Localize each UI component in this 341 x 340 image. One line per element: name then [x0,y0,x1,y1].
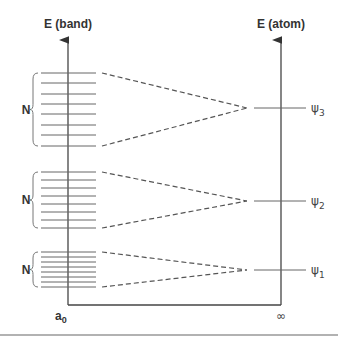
band-group: Nψ3 [22,73,325,146]
axes [68,40,281,305]
dashed-connector [102,252,247,270]
dashed-connector [102,108,247,146]
band-formation-diagram: E (band) E (atom) a0 ∞ Nψ3Nψ2Nψ1 [0,0,341,340]
band-group: Nψ1 [22,252,325,287]
band-count-label: N [22,263,31,277]
brace-icon [30,172,38,228]
atomic-level-label: ψ1 [311,263,325,280]
energy-bands: Nψ3Nψ2Nψ1 [22,73,325,287]
atomic-level-label: ψ2 [311,194,325,211]
band-count-label: N [22,103,31,117]
band-count-label: N [22,193,31,207]
dashed-connector [102,201,247,228]
left-axis-label: E (band) [44,17,92,31]
dashed-connector [102,73,247,108]
right-axis-label: E (atom) [257,17,305,31]
band-group: Nψ2 [22,172,325,228]
brace-icon [30,252,38,287]
x-right-label: ∞ [276,309,286,323]
dashed-connector [102,172,247,201]
atomic-level-label: ψ3 [311,101,325,118]
dashed-connector [102,270,247,287]
brace-icon [30,73,38,146]
x-left-label: a0 [55,309,67,325]
